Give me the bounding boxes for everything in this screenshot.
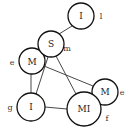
node-label: I xyxy=(29,102,33,112)
node-side-label: f xyxy=(106,114,110,123)
node-label: MI xyxy=(78,104,91,114)
node-label: M xyxy=(27,57,36,67)
node-m-left: M e xyxy=(10,48,45,74)
node-label: I xyxy=(79,11,83,21)
node-i-top: I l xyxy=(68,3,103,29)
node-s: S m xyxy=(38,31,71,57)
node-side-label: e xyxy=(120,88,125,97)
node-side-label: m xyxy=(63,44,71,53)
node-label: M xyxy=(100,87,109,97)
edge-i-top-to-s xyxy=(59,26,72,34)
network-diagram: I l M e S m I g M e MI f xyxy=(0,0,125,129)
nodes: I l M e S m I g M e MI f xyxy=(7,3,124,126)
node-label: S xyxy=(48,39,54,49)
edge-i-bottom-to-mi xyxy=(45,107,67,109)
node-side-label: l xyxy=(100,12,103,21)
node-side-label: g xyxy=(7,103,12,112)
edge-m-left-to-m-right xyxy=(44,66,93,86)
node-i-bottom: I g xyxy=(7,93,45,121)
node-side-label: e xyxy=(10,58,15,67)
